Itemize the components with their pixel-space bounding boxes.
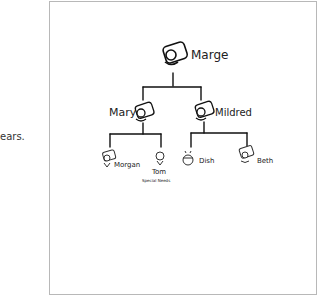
- node-label-marge: Marge: [191, 48, 228, 62]
- node-label-morgan: Morgan: [114, 161, 140, 169]
- mary-person-icon: [135, 102, 155, 121]
- node-note-tom: Special Needs: [142, 178, 170, 183]
- mildred-person-icon: [195, 101, 215, 120]
- node-label-mildred: Mildred: [215, 107, 252, 118]
- node-label-dish: Dish: [199, 157, 214, 165]
- node-label-beth: Beth: [257, 157, 273, 165]
- family-tree-diagram: Marge Mary Mildred Morgan Tom Special Ne…: [0, 0, 330, 301]
- beth-person-icon: [239, 145, 254, 162]
- node-label-tom: Tom: [151, 168, 166, 176]
- dish-person-icon: [183, 151, 193, 165]
- tom-person-icon: [156, 152, 164, 165]
- node-label-mary: Mary: [109, 106, 137, 119]
- marge-person-icon: [162, 41, 188, 65]
